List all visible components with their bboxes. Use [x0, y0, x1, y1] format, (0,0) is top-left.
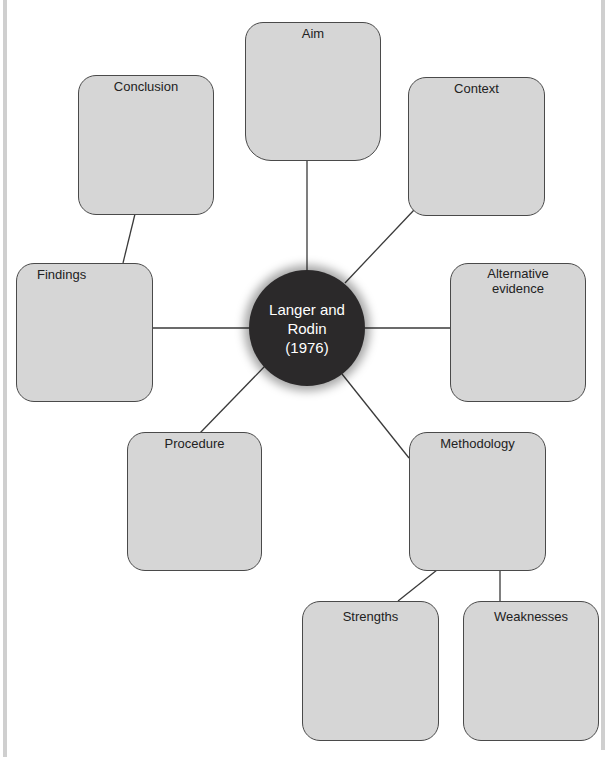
node-methodology: Methodology	[409, 432, 546, 571]
node-context-label: Context	[409, 78, 544, 96]
node-weaknesses-label: Weaknesses	[464, 602, 598, 624]
node-strengths: Strengths	[302, 601, 439, 741]
node-aim: Aim	[245, 22, 381, 161]
node-alternative-evidence: Alternative evidence	[450, 263, 586, 402]
connector-conclusion-findings	[123, 214, 135, 263]
central-topic-line1: Langer and	[269, 300, 345, 319]
central-topic-line3: (1976)	[269, 338, 345, 357]
node-context: Context	[408, 77, 545, 216]
node-conclusion-label: Conclusion	[79, 76, 213, 94]
node-aim-label: Aim	[246, 23, 380, 41]
node-conclusion: Conclusion	[78, 75, 214, 215]
node-methodology-label: Methodology	[410, 433, 545, 451]
node-alternative-evidence-label-line2: evidence	[451, 281, 585, 296]
node-weaknesses: Weaknesses	[463, 601, 599, 741]
connector-context	[345, 210, 414, 283]
connector-methodology-strengths	[398, 570, 437, 601]
node-procedure: Procedure	[127, 432, 262, 571]
central-topic-node: Langer and Rodin (1976)	[249, 270, 365, 386]
node-findings: Findings	[16, 263, 153, 402]
node-alternative-evidence-label-line1: Alternative	[451, 264, 585, 281]
central-topic-line2: Rodin	[269, 319, 345, 338]
node-procedure-label: Procedure	[128, 433, 261, 451]
node-strengths-label: Strengths	[303, 602, 438, 624]
central-topic-label: Langer and Rodin (1976)	[269, 300, 345, 357]
node-findings-label: Findings	[17, 264, 152, 282]
connector-procedure	[200, 366, 265, 433]
connector-methodology	[342, 374, 409, 458]
